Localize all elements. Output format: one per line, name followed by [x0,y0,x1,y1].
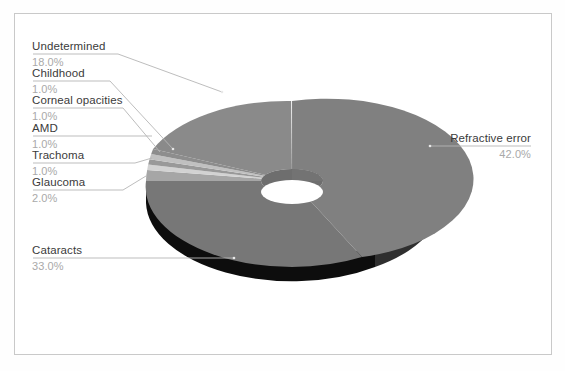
label-undetermined: Undetermined [32,40,105,53]
chart-figure: Undetermined 18.0% Childhood 1.0% Cornea… [0,0,565,371]
label-glaucoma: Glaucoma [32,176,85,189]
label-childhood: Childhood [32,67,85,80]
label-amd: AMD [32,122,58,135]
label-trachoma: Trachoma [32,149,84,162]
value-cataracts: 33.0% [32,260,64,273]
value-glaucoma: 2.0% [32,192,57,205]
label-cataracts: Cataracts [32,244,82,257]
value-refractive-error: 42.0% [499,148,531,161]
donut-hole [261,169,323,204]
label-refractive-error: Refractive error [450,132,531,145]
hole-opening [261,180,323,204]
label-corneal-opacities: Corneal opacities [32,94,123,107]
